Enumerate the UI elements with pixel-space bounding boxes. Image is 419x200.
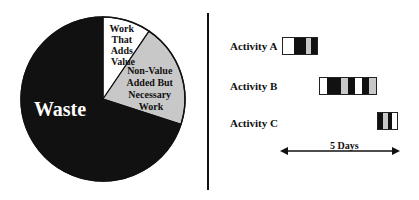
- bar-segment: [369, 78, 376, 94]
- activity-b-label: Activity B: [230, 80, 277, 92]
- bar-segment: [362, 78, 369, 94]
- label-waste: Waste: [34, 98, 86, 120]
- bar-segment: [341, 78, 348, 94]
- bar-segment: [320, 78, 327, 94]
- activity-c-label: Activity C: [230, 117, 278, 129]
- label-value-add: Work That Adds Value: [110, 23, 137, 67]
- pie-chart: Work That Adds Value Non-Value Added But…: [0, 0, 210, 200]
- bar-segment: [327, 78, 334, 94]
- divider-line: [207, 13, 209, 190]
- double-arrow-icon: [280, 145, 400, 157]
- bar-segment: [334, 78, 341, 94]
- activity-a-bar: [282, 37, 318, 55]
- bar-segment: [311, 38, 317, 54]
- activity-c-bar: [377, 112, 398, 130]
- bar-segment: [392, 113, 397, 129]
- bar-segment: [348, 78, 355, 94]
- activity-a-label: Activity A: [230, 40, 277, 52]
- bar-segment: [355, 78, 362, 94]
- activity-b-bar: [319, 77, 377, 95]
